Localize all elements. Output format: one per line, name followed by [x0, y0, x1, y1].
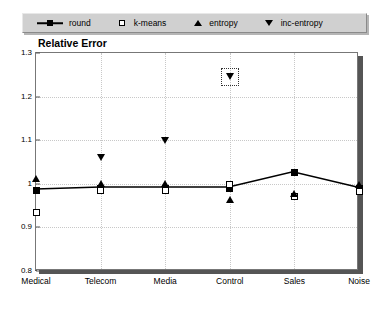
chart-legend: round k-means entropy inc-entropy — [22, 13, 367, 33]
legend-label-entropy: entropy — [209, 19, 237, 28]
legend-entry-inc-entropy[interactable]: inc-entropy — [264, 18, 323, 28]
x-tick-label: Noise — [348, 277, 370, 286]
x-tick-label: Telecom — [85, 277, 117, 286]
y-tick-label: 1.3 — [21, 49, 32, 57]
y-tick-label: 1.2 — [21, 93, 32, 101]
triangle-down-icon — [264, 18, 275, 28]
selected-point-box[interactable] — [221, 68, 239, 86]
line-square-filled-icon — [37, 18, 63, 28]
chart-title: Relative Error — [38, 38, 107, 49]
x-tick-label: Sales — [284, 277, 305, 286]
round-series-line — [36, 53, 357, 269]
legend-label-round: round — [69, 19, 91, 28]
y-tick-mark — [36, 271, 40, 272]
triangle-up-icon — [192, 18, 203, 28]
legend-label-k-means: k-means — [134, 19, 167, 28]
x-tick-label: Control — [216, 277, 243, 286]
x-tick-label: Medical — [21, 277, 50, 286]
y-tick-label: 1.1 — [21, 136, 32, 144]
y-tick-label: 0.8 — [21, 267, 32, 275]
legend-label-inc-entropy: inc-entropy — [281, 19, 323, 28]
plot-shadow-right — [358, 56, 363, 274]
square-open-icon — [117, 18, 128, 28]
x-tick-label: Media — [154, 277, 177, 286]
legend-entry-k-means[interactable]: k-means — [117, 18, 167, 28]
plot-area: 0.80.911.11.21.3 MedicalTelecomMediaCont… — [35, 52, 358, 270]
legend-entry-round[interactable]: round — [37, 18, 91, 28]
y-tick-label: 0.9 — [21, 223, 32, 231]
legend-entry-entropy[interactable]: entropy — [192, 18, 237, 28]
